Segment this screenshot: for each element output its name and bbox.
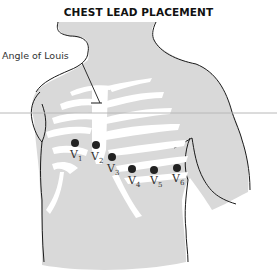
electrode-v4: [128, 165, 136, 173]
lead-label-v1: V1: [70, 148, 82, 163]
chest-diagram: [0, 0, 277, 277]
angle-of-louis-label: Angle of Louis: [2, 50, 69, 61]
lead-label-v2: V2: [91, 150, 103, 165]
lead-label-v6: V6: [172, 172, 184, 187]
electrode-v1: [71, 139, 79, 147]
lead-label-v4: V4: [128, 174, 140, 189]
lead-label-v3: V3: [107, 162, 119, 177]
electrode-v2: [92, 141, 100, 149]
lead-label-v5: V5: [150, 174, 162, 189]
electrode-v5: [150, 166, 158, 174]
electrode-v6: [173, 164, 181, 172]
electrode-v3: [108, 153, 116, 161]
